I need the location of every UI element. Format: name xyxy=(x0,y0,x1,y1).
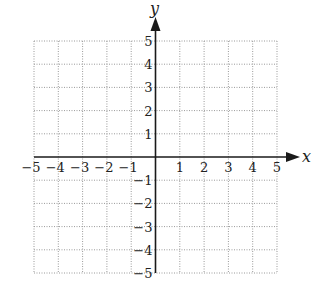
x-tick-label: −5 xyxy=(21,160,40,175)
x-tick-label: 2 xyxy=(200,160,208,175)
y-tick-label: −3 xyxy=(133,220,152,235)
x-tick-label: −3 xyxy=(70,160,89,175)
x-tick-label: 1 xyxy=(176,160,184,175)
x-axis-arrow-icon xyxy=(286,152,300,162)
x-tick-label: 3 xyxy=(224,160,232,175)
y-axis-arrow-icon xyxy=(151,17,161,31)
x-tick-label: −2 xyxy=(94,160,113,175)
x-tick-label: 4 xyxy=(249,160,257,175)
x-tick-label: −4 xyxy=(46,160,65,175)
x-tick-label: 5 xyxy=(273,160,281,175)
y-tick-label: −5 xyxy=(133,266,152,281)
y-tick-label: 2 xyxy=(144,104,152,119)
y-tick-label: 3 xyxy=(144,80,152,95)
y-axis-label: y xyxy=(149,0,160,18)
y-tick-label: 1 xyxy=(144,127,152,142)
y-tick-label: −2 xyxy=(133,196,152,211)
y-tick-label: −4 xyxy=(133,243,152,258)
coordinate-plane: x y −5−4−3−2−112345 54321−1−2−3−4−5 xyxy=(0,0,324,287)
y-tick-label: −1 xyxy=(133,173,152,188)
x-axis-label: x xyxy=(302,147,311,166)
y-tick-label: 4 xyxy=(144,57,152,72)
y-tick-label: 5 xyxy=(144,34,152,49)
